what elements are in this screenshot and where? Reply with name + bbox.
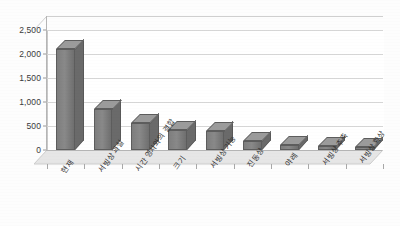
x-tick-mark	[383, 164, 384, 169]
x-tick-mark	[122, 164, 123, 169]
bar[interactable]	[94, 109, 113, 150]
bar-front-face	[94, 109, 113, 150]
x-tick-mark	[196, 164, 197, 169]
x-tick-mark	[47, 164, 48, 169]
x-tick-mark	[346, 164, 347, 169]
x-tick-mark	[159, 164, 160, 169]
y-tick-label: 2,500	[19, 25, 41, 35]
bar-front-face	[168, 130, 187, 150]
bar-front-face	[56, 49, 75, 150]
y-tick-label: 2,000	[19, 49, 41, 59]
y-tick-label: 1,000	[19, 97, 41, 107]
top-gridline	[47, 16, 383, 17]
bar-chart: 05001,0001,5002,0002,500 현재서빙상 과실시간 영사와의…	[0, 0, 400, 226]
x-tick-mark	[308, 164, 309, 169]
y-tick-label: 1,500	[19, 73, 41, 83]
y-tick-label: 500	[27, 121, 41, 131]
bar[interactable]	[168, 130, 187, 150]
bar-side-face	[75, 39, 84, 150]
bar[interactable]	[56, 49, 75, 150]
plot-area: 05001,0001,5002,0002,500	[47, 30, 383, 150]
x-tick-mark	[234, 164, 235, 169]
x-tick-mark	[271, 164, 272, 169]
x-tick-mark	[84, 164, 85, 169]
bar-series	[47, 30, 383, 150]
